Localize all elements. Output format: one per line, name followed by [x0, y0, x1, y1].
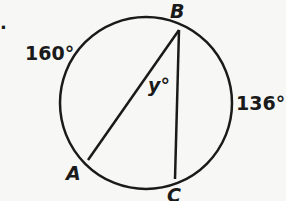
problem-marker: .: [0, 14, 7, 32]
inscribed-angle-diagram: . B A C 160° 136° y°: [0, 0, 286, 201]
arc-label-ab: 160°: [25, 44, 74, 63]
chord-bc: [175, 30, 179, 179]
arc-label-bc: 136°: [236, 94, 285, 113]
point-label-c: C: [167, 186, 181, 201]
point-label-b: B: [170, 2, 184, 21]
circle: [60, 17, 232, 189]
point-label-a: A: [66, 164, 81, 183]
angle-label-y: y°: [148, 76, 170, 95]
